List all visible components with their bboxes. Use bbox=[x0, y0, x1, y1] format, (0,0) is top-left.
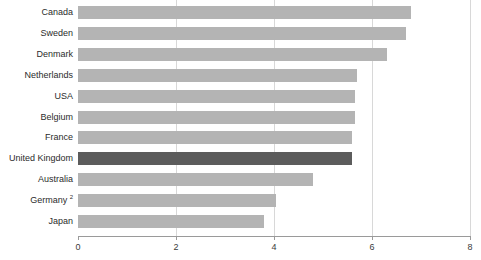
category-label-france: France bbox=[0, 131, 73, 144]
x-tick-label-2: 2 bbox=[164, 241, 188, 253]
x-tick-label-0: 0 bbox=[66, 241, 90, 253]
x-tick-8 bbox=[470, 236, 471, 240]
bar-usa bbox=[78, 90, 355, 103]
x-tick-label-4: 4 bbox=[262, 241, 286, 253]
category-label-canada: Canada bbox=[0, 6, 73, 19]
category-label-netherlands: Netherlands bbox=[0, 69, 73, 82]
category-label-usa: USA bbox=[0, 90, 73, 103]
category-label-australia: Australia bbox=[0, 173, 73, 186]
x-tick-label-6: 6 bbox=[360, 241, 384, 253]
x-tick-label-8: 8 bbox=[458, 241, 481, 253]
bar-united-kingdom bbox=[78, 152, 352, 165]
x-tick-2 bbox=[176, 236, 177, 240]
bar-germany bbox=[78, 194, 276, 207]
bar-france bbox=[78, 131, 352, 144]
category-label-belgium: Belgium bbox=[0, 111, 73, 124]
bar-netherlands bbox=[78, 69, 357, 82]
category-label-germany: Germany 2 bbox=[0, 194, 73, 207]
bar-denmark bbox=[78, 48, 387, 61]
bar-australia bbox=[78, 173, 313, 186]
category-label-sweden: Sweden bbox=[0, 27, 73, 40]
bar-canada bbox=[78, 6, 411, 19]
bar-belgium bbox=[78, 111, 355, 124]
category-label-united-kingdom: United Kingdom bbox=[0, 152, 73, 165]
bar-sweden bbox=[78, 27, 406, 40]
bar-chart: CanadaSwedenDenmarkNetherlandsUSABelgium… bbox=[0, 0, 481, 260]
x-tick-6 bbox=[372, 236, 373, 240]
plot-area bbox=[78, 0, 470, 236]
x-tick-0 bbox=[78, 236, 79, 240]
x-tick-4 bbox=[274, 236, 275, 240]
category-label-japan: Japan bbox=[0, 215, 73, 228]
category-label-denmark: Denmark bbox=[0, 48, 73, 61]
gridline-8 bbox=[470, 0, 471, 236]
bar-japan bbox=[78, 215, 264, 228]
